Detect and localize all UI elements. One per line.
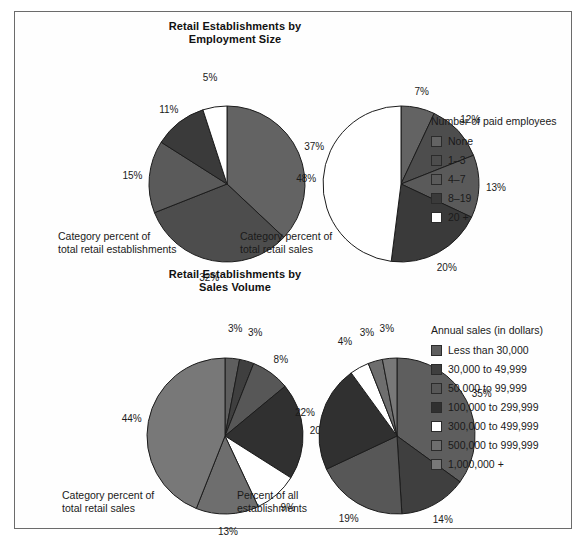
pie-slice-percent-label: 22% [295,407,315,418]
legend-swatch-icon [431,345,442,356]
section-title-sales-volume: Retail Establishments by Sales Volume [135,268,335,294]
legend-swatch-icon [431,364,442,375]
pie-slice-percent-label: 3% [228,323,242,334]
legend-swatch-icon [431,383,442,394]
legend-item-label: Less than 30,000 [448,344,529,356]
legend-item-label: 1,000,000 + [448,458,504,470]
legend-item-label: 30,000 to 49,999 [448,363,527,375]
legend-sales-volume: Annual sales (in dollars)Less than 30,00… [431,324,543,477]
legend-item[interactable]: 100,000 to 299,999 [431,401,543,413]
pie-slice-percent-label: 3% [360,327,374,338]
legend-item-label: 300,000 to 499,999 [448,420,539,432]
pie-caption-sales-volume-establishments: Percent of all establishments [237,489,417,515]
legend-item-label: 500,000 to 999,999 [448,439,539,451]
pie-slice-percent-label: 44% [122,413,142,424]
legend-item-label: 100,000 to 299,999 [448,401,539,413]
legend-item[interactable]: 1,000,000 + [431,458,543,470]
legend-item[interactable]: 30,000 to 49,999 [431,363,543,375]
pie-slice-percent-label: 3% [380,323,394,334]
legend-swatch-icon [431,440,442,451]
legend-title: Annual sales (in dollars) [431,324,543,336]
section-sales-volume: Retail Establishments by Sales Volume 3%… [15,12,571,528]
legend-item[interactable]: 300,000 to 499,999 [431,420,543,432]
legend-swatch-icon [431,421,442,432]
legend-item[interactable]: 500,000 to 999,999 [431,439,543,451]
pie-slice-percent-label: 13% [218,525,238,536]
pie-caption-sales-volume-sales: Category percent of total retail sales [62,489,242,515]
legend-item-label: 50,000 to 99,999 [448,382,527,394]
legend-swatch-icon [431,459,442,470]
legend-item[interactable]: Less than 30,000 [431,344,543,356]
legend-item[interactable]: 50,000 to 99,999 [431,382,543,394]
pie-slice-percent-label: 14% [433,514,453,525]
pie-slice-percent-label: 4% [338,336,352,347]
figure-frame: Retail Establishments by Employment Size… [14,11,572,529]
legend-swatch-icon [431,402,442,413]
pie-slice-percent-label: 3% [248,327,262,338]
